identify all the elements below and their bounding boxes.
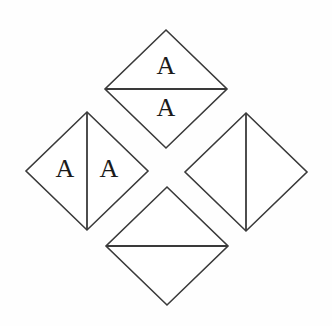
top-diamond-group: A A	[105, 30, 227, 148]
left-diamond-left-letter: A	[56, 154, 75, 183]
left-diamond-right-letter: A	[100, 154, 119, 183]
bottom-diamond-group	[106, 187, 228, 305]
figure-canvas: A A A A	[0, 0, 332, 326]
diamond-arrangement-diagram: A A A A	[0, 0, 332, 326]
top-diamond-lower-letter: A	[157, 93, 176, 122]
top-diamond-upper-letter: A	[157, 51, 176, 80]
left-diamond-group: A A	[26, 112, 148, 230]
right-diamond-group	[185, 113, 307, 231]
